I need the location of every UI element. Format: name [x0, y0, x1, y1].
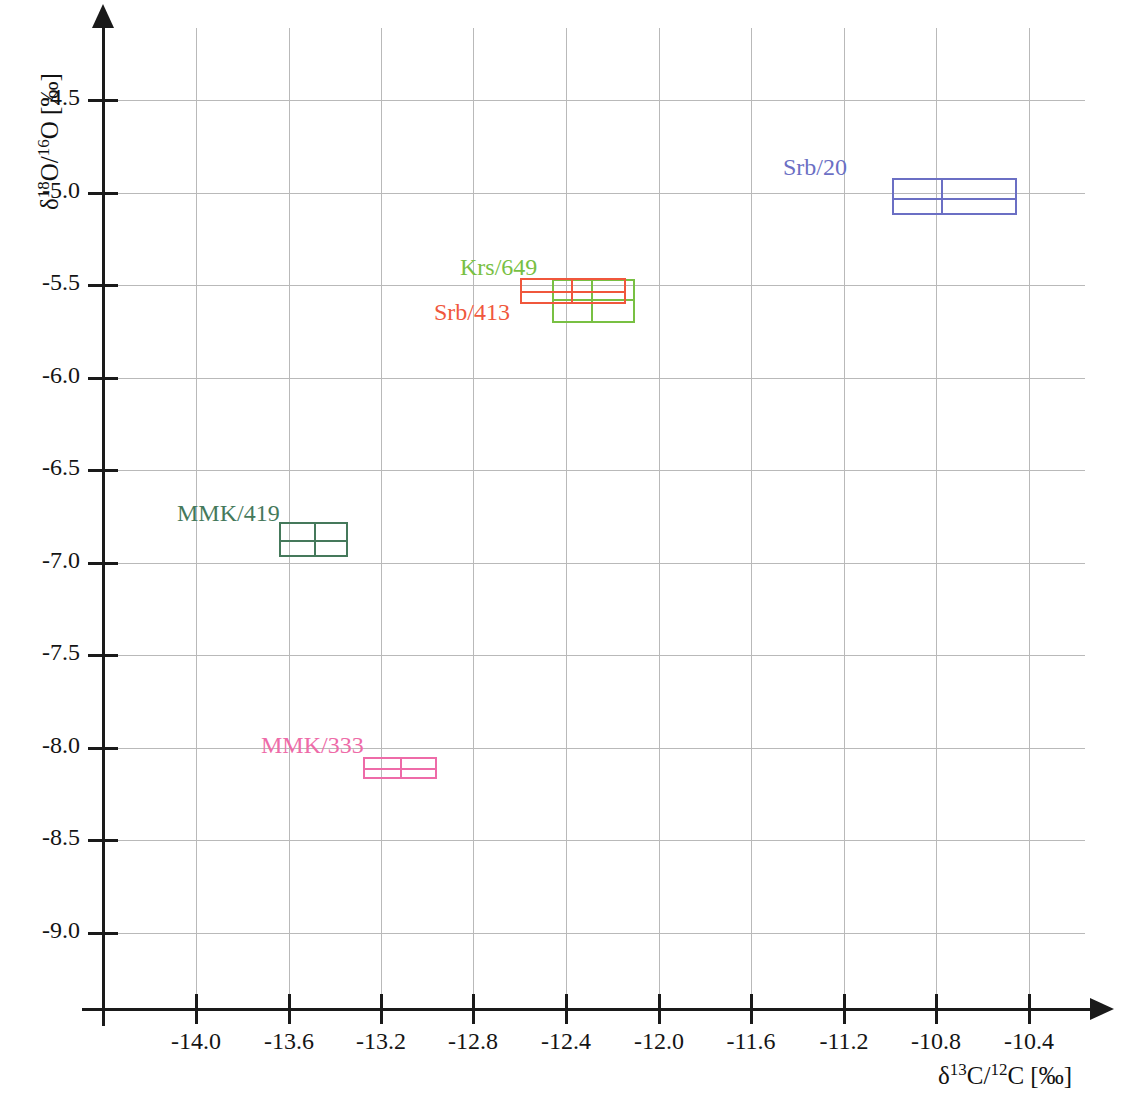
series-label-srb-413: Srb/413: [434, 299, 510, 326]
x-axis-tick-label: -12.4: [521, 1028, 611, 1055]
grid-line-vertical: [1029, 28, 1030, 1008]
grid-line-vertical: [936, 28, 937, 1008]
x-axis-tick-label: -13.6: [244, 1028, 334, 1055]
y-axis-tick-label: -7.0: [14, 547, 80, 574]
mean-marker-horizontal: [522, 291, 624, 293]
x-axis-tick-label: -10.4: [984, 1028, 1074, 1055]
x-axis-tick-label: -10.8: [891, 1028, 981, 1055]
y-axis-tick-label: -6.5: [14, 454, 80, 481]
y-axis-tick-label: -6.0: [14, 362, 80, 389]
x-axis-tick-label: -13.2: [336, 1028, 426, 1055]
y-axis-title-mid: O/: [36, 156, 63, 181]
x-axis-title-mid: C/: [967, 1062, 991, 1089]
series-label-mmk-333: MMK/333: [261, 732, 364, 759]
x-axis-title-sup-13: 13: [950, 1060, 967, 1079]
x-axis-tick-label: -11.6: [706, 1028, 796, 1055]
mean-marker-horizontal: [894, 198, 1015, 200]
y-axis-tick: [88, 562, 118, 565]
y-axis-tick: [88, 284, 118, 287]
y-axis-tick: [88, 99, 118, 102]
x-axis-tick-label: -12.0: [614, 1028, 704, 1055]
x-axis-tick: [195, 994, 198, 1024]
x-axis-tick: [288, 994, 291, 1024]
y-axis-tick: [88, 192, 118, 195]
x-axis-tick-label: -12.8: [428, 1028, 518, 1055]
data-box-srb-20[interactable]: [892, 178, 1017, 215]
y-axis-title: δ18O/16O [‰]: [34, 73, 64, 210]
x-axis-title: δ13C/12C [‰]: [938, 1060, 1072, 1090]
x-axis-tick: [565, 994, 568, 1024]
data-box-mmk-419[interactable]: [279, 522, 348, 557]
grid-line-horizontal: [103, 100, 1085, 101]
y-axis-tick: [88, 654, 118, 657]
series-label-krs-649: Krs/649: [460, 254, 537, 281]
y-axis-line: [102, 24, 105, 1026]
data-box-mmk-333[interactable]: [363, 757, 437, 779]
grid-line-horizontal: [103, 748, 1085, 749]
x-axis-tick: [750, 994, 753, 1024]
x-axis-tick: [843, 994, 846, 1024]
mean-marker-vertical: [941, 180, 943, 213]
x-axis-tick: [658, 994, 661, 1024]
grid-line-vertical: [473, 28, 474, 1008]
y-axis-tick: [88, 377, 118, 380]
grid-line-horizontal: [103, 840, 1085, 841]
grid-line-horizontal: [103, 563, 1085, 564]
x-axis-tick: [472, 994, 475, 1024]
x-axis-title-delta: δ: [938, 1062, 950, 1089]
grid-line-vertical: [659, 28, 660, 1008]
y-axis-tick-label: -8.0: [14, 732, 80, 759]
mean-marker-horizontal: [365, 768, 435, 770]
y-axis-tick: [88, 932, 118, 935]
grid-line-horizontal: [103, 470, 1085, 471]
y-axis-tick-label: -7.5: [14, 639, 80, 666]
x-axis-arrow-icon: [1090, 998, 1114, 1020]
y-axis-tick: [88, 839, 118, 842]
series-label-mmk-419: MMK/419: [177, 500, 280, 527]
grid-line-vertical: [566, 28, 567, 1008]
y-axis-tick: [88, 469, 118, 472]
grid-line-vertical: [751, 28, 752, 1008]
y-axis-arrow-icon: [92, 4, 114, 28]
grid-line-horizontal: [103, 655, 1085, 656]
y-axis-title-sup-16: 16: [34, 139, 53, 156]
y-axis-tick-label: -5.5: [14, 269, 80, 296]
x-axis-line: [82, 1008, 1092, 1011]
x-axis-tick-label: -11.2: [799, 1028, 889, 1055]
series-label-srb-20: Srb/20: [783, 154, 847, 181]
x-axis-title-tail: C [‰]: [1007, 1062, 1072, 1089]
y-axis-tick-label: -9.0: [14, 917, 80, 944]
mean-marker-horizontal: [281, 540, 346, 542]
x-axis-title-sup-12: 12: [990, 1060, 1007, 1079]
y-axis-title-sup-18: 18: [34, 181, 53, 198]
y-axis-tick-label: -8.5: [14, 824, 80, 851]
x-axis-tick: [935, 994, 938, 1024]
y-axis-title-tail: O [‰]: [36, 73, 63, 139]
grid-line-horizontal: [103, 933, 1085, 934]
x-axis-tick: [380, 994, 383, 1024]
data-box-srb-413[interactable]: [520, 278, 626, 304]
isotope-crossplot: -4.5-5.0-5.5-6.0-6.5-7.0-7.5-8.0-8.5-9.0…: [0, 0, 1121, 1105]
grid-line-vertical: [381, 28, 382, 1008]
y-axis-tick: [88, 747, 118, 750]
x-axis-tick-label: -14.0: [151, 1028, 241, 1055]
x-axis-tick: [1028, 994, 1031, 1024]
grid-line-horizontal: [103, 378, 1085, 379]
grid-line-vertical: [289, 28, 290, 1008]
y-axis-title-delta: δ: [36, 198, 63, 210]
